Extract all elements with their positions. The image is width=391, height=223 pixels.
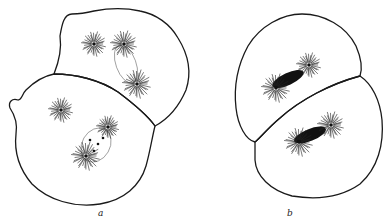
aster-a-lower-3: [71, 142, 100, 171]
panel-label-b: b: [287, 208, 293, 218]
aster-a-lower-2: [96, 115, 119, 138]
aster-a-upper-3: [122, 70, 151, 99]
asters: [48, 31, 344, 171]
panel-label-a: a: [98, 208, 103, 218]
cell-a-upper-outline: [54, 9, 189, 126]
aster-a-upper-1: [81, 31, 106, 56]
spindle-mass-b-lower: [292, 123, 328, 147]
figure-canvas: [0, 0, 391, 223]
aster-a-upper-2: [110, 31, 137, 58]
cell-a-lower-outline: [9, 74, 155, 205]
aster-a-lower-1: [48, 97, 73, 122]
